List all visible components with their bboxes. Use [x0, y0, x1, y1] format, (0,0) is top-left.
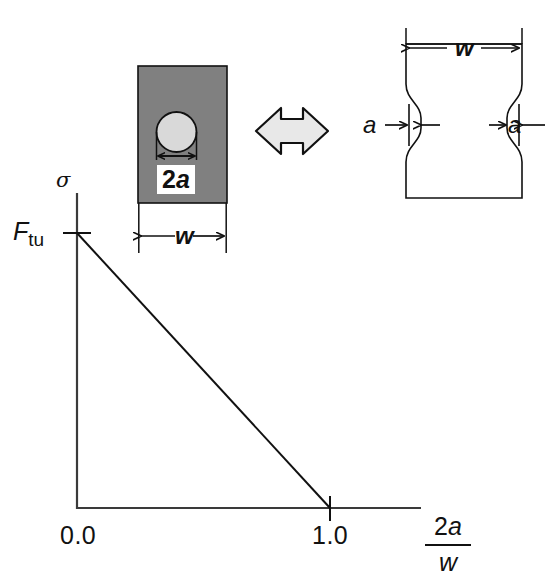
fraction-numerator-two: 2 — [434, 512, 448, 540]
hole-circle — [157, 112, 197, 152]
failure-stress-line — [77, 233, 330, 508]
x-tick-label-zero: 0.0 — [60, 523, 96, 548]
figure-vector-layer — [0, 0, 553, 583]
double-headed-arrow-icon — [256, 108, 328, 154]
plot-group — [63, 193, 421, 521]
x-tick-label-one: 1.0 — [312, 523, 348, 548]
fraction-denominator: w — [425, 547, 471, 577]
hole-dimension-a: a — [176, 165, 190, 193]
fraction-bar — [425, 544, 471, 546]
fraction-numerator-a: a — [448, 512, 462, 540]
fraction-numerator: 2a — [425, 512, 471, 542]
ftu-subscript: tu — [28, 229, 44, 250]
y-axis-symbol-sigma: σ — [56, 170, 70, 191]
plate-width-label: w — [175, 224, 194, 248]
x-axis-label-fraction: 2a w — [425, 512, 471, 577]
y-tick-label-ftu: Ftu — [13, 219, 44, 249]
ftu-main-symbol: F — [13, 217, 28, 245]
figure-canvas: σ Ftu 0.0 1.0 2a w 2a w w a a — [0, 0, 553, 583]
right-notch-label-a: a — [508, 113, 521, 137]
left-notch-label-a: a — [363, 113, 376, 137]
hole-dimension-two: 2 — [162, 165, 176, 193]
hole-dimension-label: 2a — [157, 165, 195, 194]
specimen-width-label: w — [455, 36, 474, 60]
equivalence-arrow-group — [256, 108, 328, 154]
notched-specimen-outline — [406, 44, 522, 198]
